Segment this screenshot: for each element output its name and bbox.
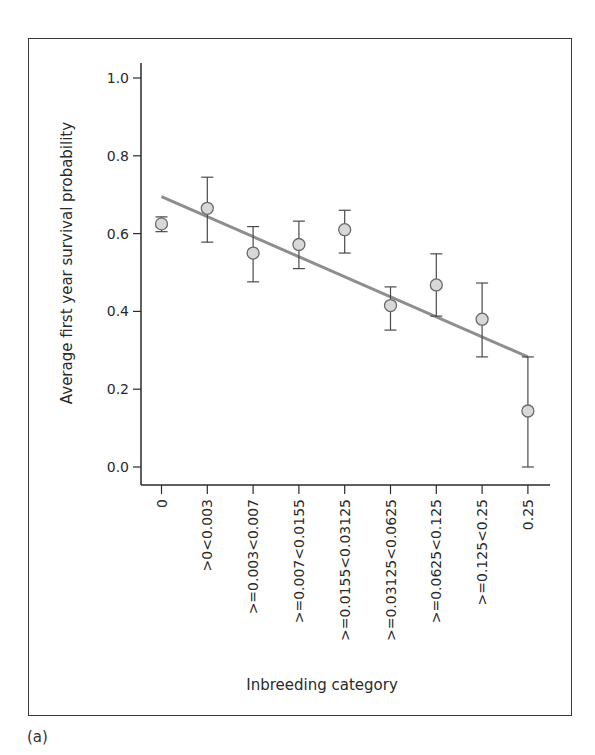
y-tick-label: 1.0 [107, 70, 129, 86]
data-point [476, 313, 488, 325]
y-tick-label: 0.0 [107, 459, 129, 475]
data-point [201, 202, 213, 214]
y-axis-title: Average first year survival probability [58, 122, 76, 404]
data-point-group [476, 283, 488, 357]
y-tick-label: 0.8 [107, 148, 129, 164]
data-points [156, 177, 534, 467]
data-point [247, 247, 259, 259]
data-point-group [293, 221, 305, 268]
y-tick-label: 0.6 [107, 226, 129, 242]
y-ticks: 0.00.20.40.60.81.0 [107, 70, 141, 475]
data-point [339, 224, 351, 236]
chart: 0.00.20.40.60.81.0 0>0<0.003>=0.003<0.00… [0, 0, 595, 755]
data-point [293, 238, 305, 250]
x-axis-title: Inbreeding category [246, 676, 398, 694]
x-tick-label: 0 [154, 499, 170, 508]
y-tick-label: 0.4 [107, 303, 129, 319]
x-tick-label: >=0.0155<0.03125 [337, 499, 353, 641]
data-point-group [156, 217, 168, 232]
y-tick-label: 0.2 [107, 381, 129, 397]
x-tick-label: >=0.03125<0.0625 [383, 499, 399, 641]
data-point [430, 279, 442, 291]
x-tick-label: >0<0.003 [199, 499, 215, 571]
data-point-group [522, 357, 534, 467]
x-ticks: 0>0<0.003>=0.003<0.007>=0.007<0.0155>=0.… [154, 485, 536, 641]
data-point [522, 405, 534, 417]
x-tick-label: >=0.0625<0.125 [428, 499, 444, 623]
data-point-group [201, 177, 213, 242]
data-point [385, 300, 397, 312]
data-point [156, 218, 168, 230]
data-point-group [339, 210, 351, 253]
data-point-group [430, 254, 442, 316]
panel-label: (a) [27, 728, 48, 746]
x-tick-label: >=0.007<0.0155 [291, 499, 307, 623]
x-tick-label: 0.25 [520, 499, 536, 530]
x-tick-label: >=0.125<0.25 [474, 499, 490, 605]
axes [141, 63, 550, 485]
x-tick-label: >=0.003<0.007 [245, 499, 261, 614]
